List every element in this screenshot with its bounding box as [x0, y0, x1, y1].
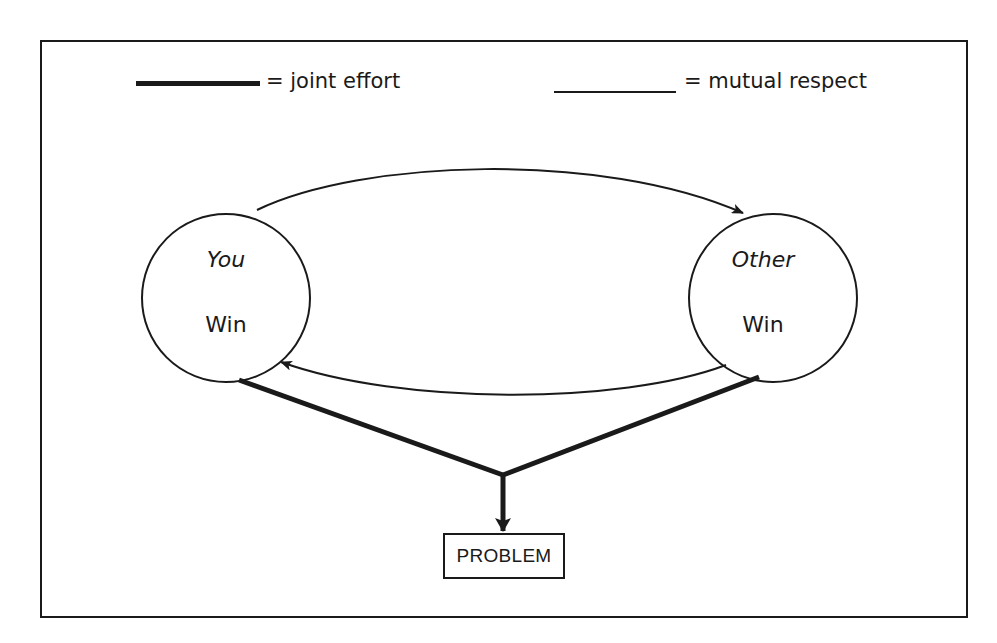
- other-node-circle: [689, 214, 857, 382]
- joint-effort-line-other: [503, 377, 759, 475]
- problem-label: PROBLEM: [456, 545, 551, 567]
- you-node-circle: [142, 214, 310, 382]
- problem-box: PROBLEM: [443, 533, 565, 579]
- you-node-title: You: [156, 247, 296, 273]
- mutual-respect-arrow-you-to-other: [257, 169, 743, 213]
- you-node-subtitle: Win: [156, 312, 296, 338]
- other-node-subtitle: Win: [693, 312, 833, 338]
- other-node-title: Other: [693, 247, 833, 273]
- mutual-respect-arrow-other-to-you: [281, 362, 726, 395]
